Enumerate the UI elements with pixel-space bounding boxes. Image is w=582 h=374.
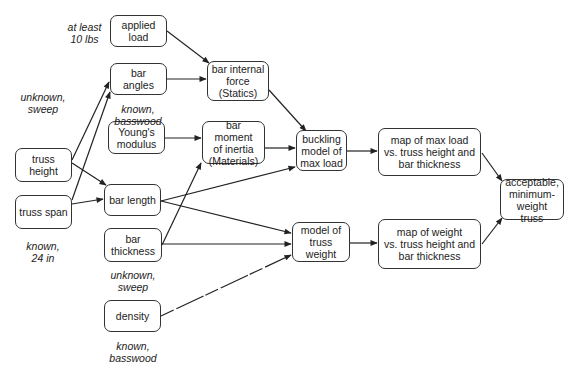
node-density: density bbox=[104, 300, 161, 332]
diagram-edges bbox=[0, 0, 582, 374]
note-bar-angles: known, basswood bbox=[108, 103, 168, 127]
note-truss-span: known, 24 in bbox=[14, 240, 72, 264]
node-bar-internal-force: bar internal force (Statics) bbox=[207, 61, 269, 101]
node-truss-span: truss span bbox=[15, 195, 72, 229]
edge-truss-height-to-bar-length bbox=[72, 163, 106, 185]
edge-density-to-weight bbox=[161, 255, 291, 316]
edge-thickness-to-moment bbox=[162, 163, 201, 245]
node-bar-moment-of-inertia: bar moment of inertia (Materials) bbox=[202, 121, 265, 164]
edge-truss-span-to-bar-length bbox=[72, 199, 103, 204]
node-bar-length: bar length bbox=[104, 184, 161, 216]
node-bar-thickness: bar thickness bbox=[104, 228, 162, 262]
note-bar-thickness: unknown, sweep bbox=[102, 269, 164, 293]
node-applied-load: applied load bbox=[110, 15, 167, 47]
node-acceptable-truss: acceptable, minimum- weight truss bbox=[500, 179, 564, 220]
node-buckling-model: buckling model of max load bbox=[296, 130, 347, 171]
edge-map-weight-to-acceptable bbox=[482, 218, 502, 244]
node-model-truss-weight: model of truss weight bbox=[292, 222, 350, 262]
edge-internal-force-to-buckling bbox=[269, 90, 306, 131]
node-truss-height: truss height bbox=[15, 148, 72, 182]
edge-bar-length-to-weight bbox=[161, 201, 291, 233]
node-map-max-load: map of max load vs. truss height and bar… bbox=[378, 128, 481, 176]
edge-map-max-to-acceptable bbox=[482, 153, 502, 181]
note-applied-load: at least 10 lbs bbox=[62, 21, 107, 45]
note-truss-height: unknown, sweep bbox=[14, 91, 72, 115]
node-map-weight: map of weight vs. truss height and bar t… bbox=[378, 219, 481, 269]
edge-applied-load-to-internal-force bbox=[167, 31, 209, 63]
note-density: known, basswood bbox=[102, 340, 164, 364]
edge-bar-length-to-buckling bbox=[161, 167, 295, 201]
node-bar-angles: bar angles bbox=[110, 63, 167, 95]
